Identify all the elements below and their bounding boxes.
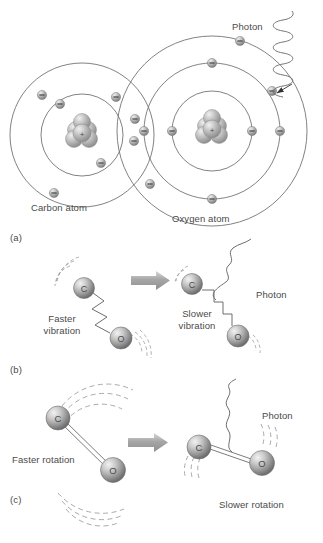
carbon-symbol-b-left: C (81, 284, 88, 294)
faster-vibration-group: C O (55, 257, 151, 358)
oxygen-nucleus-charge: + (210, 126, 215, 135)
carbon-symbol-b-right: C (189, 280, 196, 290)
panel-label-c: (c) (10, 494, 22, 505)
carbon-nucleus-charge: + (80, 130, 85, 139)
transition-arrow-b (131, 271, 170, 290)
carbon-symbol-c-left: C (55, 413, 62, 424)
transition-arrow-c (128, 433, 168, 452)
carbon-atom-label: Carbon atom (31, 202, 87, 214)
oxygen-sphere-b-left: O (110, 327, 132, 349)
slower-vibration-label: Slower vibration (166, 308, 228, 331)
carbon-sphere-c-right: C (187, 435, 211, 459)
carbon-symbol-c-right: C (196, 442, 203, 453)
slower-vibration-group: C O (175, 239, 260, 353)
rotation-arcs-bottom-left (58, 493, 124, 526)
spring-left (92, 293, 110, 333)
faster-vibration-label: Faster vibration (31, 313, 93, 336)
oxygen-symbol-b-right: O (234, 332, 241, 342)
faster-rotation-label: Faster rotation (12, 454, 75, 466)
oxygen-symbol-c-right: O (258, 458, 265, 469)
carbon-nucleus: + (66, 114, 98, 148)
oxygen-sphere-b-right: O (227, 325, 249, 347)
oxygen-symbol-b-left: O (117, 334, 124, 344)
panel-a-atoms: + + (0, 0, 323, 255)
oxygen-outer-electrons (130, 36, 276, 188)
panel-label-b: (b) (10, 364, 22, 375)
slower-rotation-label: Slower rotation (219, 499, 284, 511)
figure-root: + + (0, 0, 323, 543)
carbon-sphere-c-left: C (46, 406, 70, 430)
faster-vibration-line2: vibration (31, 325, 93, 337)
carbon-sphere-b-left: C (74, 278, 95, 299)
oxygen-symbol-c-left: O (109, 465, 116, 476)
slower-vibration-line2: vibration (166, 320, 228, 332)
slower-rotation-group: C O (184, 379, 277, 478)
rotation-arcs-right-o (261, 424, 277, 447)
oxygen-sphere-c-right: O (250, 451, 275, 476)
rotation-arcs-top-left (62, 384, 133, 422)
carbon-sphere-b-right: C (182, 274, 203, 295)
panel-label-a: (a) (10, 232, 22, 243)
photon-label-b: Photon (256, 289, 287, 301)
photon-helix-a (273, 11, 293, 97)
motion-arcs-o-left (130, 330, 151, 358)
oxygen-sphere-c-left: O (101, 458, 126, 483)
photon-label-a: Photon (232, 21, 263, 33)
oxygen-nucleus: + (196, 110, 228, 144)
rotation-arcs-right-c (184, 456, 200, 478)
photon-label-c: Photon (262, 410, 293, 422)
panel-a-svg: + + (0, 0, 323, 255)
faster-vibration-line1: Faster (31, 313, 93, 325)
oxygen-atom-label: Oxygen atom (172, 213, 230, 225)
photon-wave-b (213, 239, 251, 300)
motion-arcs-o-right (248, 335, 260, 353)
slower-vibration-line1: Slower (166, 308, 228, 320)
photon-wave-c (226, 379, 236, 452)
